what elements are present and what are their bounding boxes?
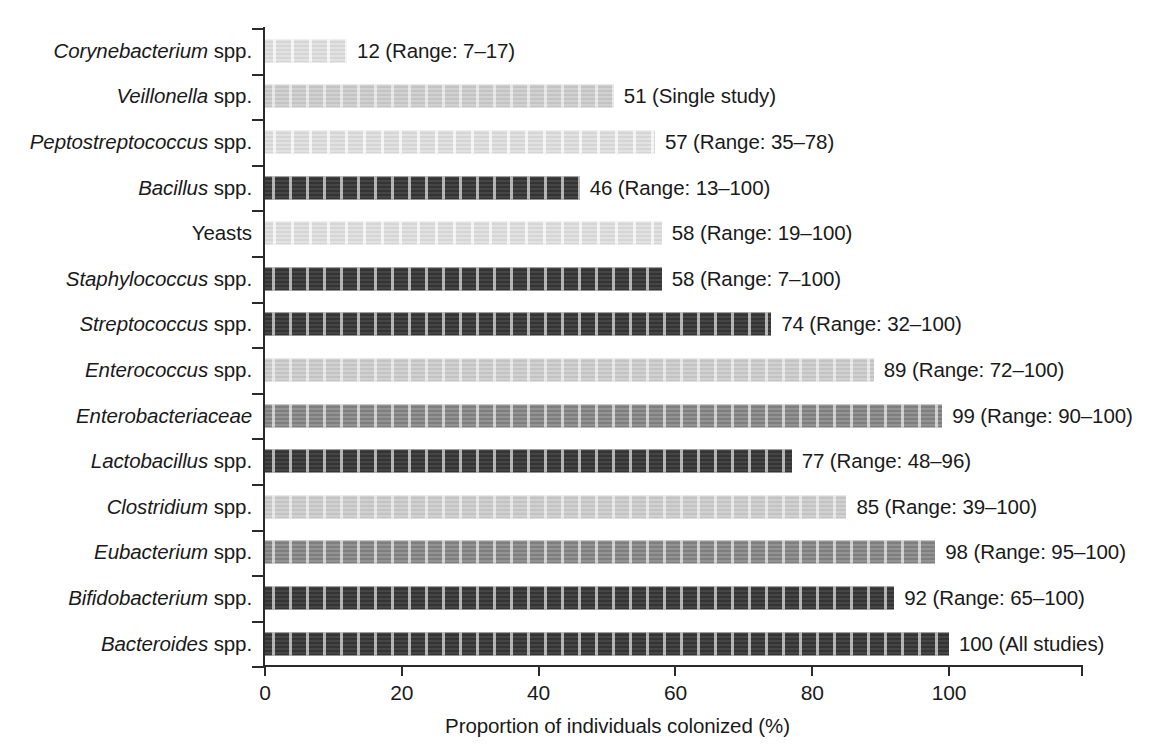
category-genus: Yeasts xyxy=(192,221,252,244)
x-axis-title: Proportion of individuals colonized (%) xyxy=(0,714,1155,738)
y-axis-tick xyxy=(252,575,264,577)
bar-value-label: 89 (Range: 72–100) xyxy=(884,358,1065,382)
category-label: Corynebacterium spp. xyxy=(53,39,252,63)
bar-row: Lactobacillus spp.77 (Range: 48–96) xyxy=(0,438,1155,484)
x-axis-end-tick xyxy=(1081,665,1083,676)
horizontal-bar-chart: Corynebacterium spp.12 (Range: 7–17)Veil… xyxy=(0,0,1155,751)
y-axis-tick xyxy=(252,210,264,212)
bar-row: Eubacterium spp.98 (Range: 95–100) xyxy=(0,530,1155,576)
bar-row: Staphylococcus spp.58 (Range: 7–100) xyxy=(0,256,1155,302)
y-axis-tick xyxy=(252,666,264,668)
bar-row: Enterococcus spp.89 (Range: 72–100) xyxy=(0,347,1155,393)
category-suffix: spp. xyxy=(208,84,252,107)
bar-row: Corynebacterium spp.12 (Range: 7–17) xyxy=(0,28,1155,74)
x-axis-tick xyxy=(538,665,540,676)
y-axis-tick xyxy=(252,256,264,258)
category-genus: Eubacterium xyxy=(94,540,208,563)
category-label: Streptococcus spp. xyxy=(79,312,252,336)
category-label: Enterococcus spp. xyxy=(85,358,252,382)
y-axis-tick xyxy=(252,119,264,121)
x-axis-title-text: Proportion of individuals colonized (%) xyxy=(445,714,790,737)
category-suffix: spp. xyxy=(208,130,252,153)
y-axis-tick xyxy=(252,302,264,304)
category-label: Bacteroides spp. xyxy=(101,632,252,656)
bar-value-label: 12 (Range: 7–17) xyxy=(357,39,515,63)
y-axis-tick xyxy=(252,74,264,76)
category-label: Bifidobacterium spp. xyxy=(68,586,252,610)
bar xyxy=(265,130,655,153)
bar xyxy=(265,495,846,518)
category-genus: Lactobacillus xyxy=(91,449,208,472)
y-axis-tick xyxy=(252,165,264,167)
category-suffix: spp. xyxy=(208,495,252,518)
x-axis-tick-label: 20 xyxy=(390,681,413,705)
category-suffix: spp. xyxy=(208,586,252,609)
bar-row: Streptococcus spp.74 (Range: 32–100) xyxy=(0,302,1155,348)
bar-value-label: 74 (Range: 32–100) xyxy=(781,312,962,336)
bar-row: Enterobacteriaceae99 (Range: 90–100) xyxy=(0,393,1155,439)
category-label: Staphylococcus spp. xyxy=(66,267,252,291)
x-axis-tick xyxy=(948,665,950,676)
bar-value-label: 57 (Range: 35–78) xyxy=(665,130,834,154)
category-genus: Enterobacteriaceae xyxy=(76,404,252,427)
y-axis-tick xyxy=(252,621,264,623)
category-label: Peptostreptococcus spp. xyxy=(30,130,252,154)
x-axis-tick-label: 100 xyxy=(932,681,966,705)
bar-value-label: 46 (Range: 13–100) xyxy=(590,176,771,200)
category-suffix: spp. xyxy=(208,632,252,655)
bar-value-label: 98 (Range: 95–100) xyxy=(945,540,1126,564)
category-genus: Clostridium xyxy=(107,495,208,518)
bar xyxy=(265,632,949,655)
bar xyxy=(265,85,614,108)
y-axis-tick xyxy=(252,530,264,532)
bar xyxy=(265,267,662,290)
category-label: Clostridium spp. xyxy=(107,495,252,519)
bar xyxy=(265,541,935,564)
bar-value-label: 77 (Range: 48–96) xyxy=(802,449,971,473)
bar xyxy=(265,222,662,245)
bar-value-label: 99 (Range: 90–100) xyxy=(952,404,1133,428)
category-genus: Bacteroides xyxy=(101,632,208,655)
bar xyxy=(265,39,347,62)
category-genus: Bacillus xyxy=(138,176,208,199)
x-axis-tick-label: 40 xyxy=(527,681,550,705)
bar-value-label: 92 (Range: 65–100) xyxy=(904,586,1085,610)
bar-row: Bacteroides spp.100 (All studies) xyxy=(0,621,1155,667)
bar xyxy=(265,404,942,427)
bar-row: Bacillus spp.46 (Range: 13–100) xyxy=(0,165,1155,211)
category-suffix: spp. xyxy=(208,358,252,381)
x-axis-tick xyxy=(264,665,266,676)
x-axis-tick-label: 0 xyxy=(259,681,270,705)
y-axis-tick xyxy=(252,438,264,440)
y-axis-tick xyxy=(252,347,264,349)
category-genus: Corynebacterium xyxy=(53,39,208,62)
bar xyxy=(265,586,894,609)
bar xyxy=(265,313,771,336)
category-genus: Staphylococcus xyxy=(66,267,208,290)
category-label: Lactobacillus spp. xyxy=(91,449,252,473)
category-suffix: spp. xyxy=(208,39,252,62)
category-genus: Enterococcus xyxy=(85,358,208,381)
category-label: Yeasts xyxy=(192,221,252,245)
bar-row: Yeasts58 (Range: 19–100) xyxy=(0,210,1155,256)
category-suffix: spp. xyxy=(208,540,252,563)
category-label: Bacillus spp. xyxy=(138,176,252,200)
x-axis-tick-label: 60 xyxy=(664,681,687,705)
category-genus: Streptococcus xyxy=(79,312,208,335)
bar-row: Bifidobacterium spp.92 (Range: 65–100) xyxy=(0,575,1155,621)
category-genus: Peptostreptococcus xyxy=(30,130,208,153)
bar-row: Veillonella spp.51 (Single study) xyxy=(0,74,1155,120)
bar xyxy=(265,176,580,199)
bar-value-label: 100 (All studies) xyxy=(959,632,1104,656)
category-suffix: spp. xyxy=(208,312,252,335)
plot-area: Corynebacterium spp.12 (Range: 7–17)Veil… xyxy=(0,0,1155,751)
x-axis-tick xyxy=(401,665,403,676)
x-axis-tick xyxy=(811,665,813,676)
bar-value-label: 58 (Range: 19–100) xyxy=(672,221,853,245)
bar-row: Clostridium spp.85 (Range: 39–100) xyxy=(0,484,1155,530)
y-axis-tick xyxy=(252,484,264,486)
category-genus: Veillonella xyxy=(116,84,208,107)
category-suffix: spp. xyxy=(208,449,252,472)
y-axis-tick xyxy=(252,393,264,395)
category-genus: Bifidobacterium xyxy=(68,586,208,609)
